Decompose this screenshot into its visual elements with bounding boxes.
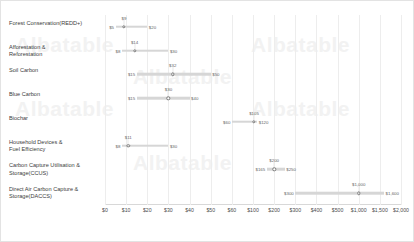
- x-tick-label: $0: [102, 207, 108, 213]
- category-label: Afforestation &Reforestation: [9, 44, 103, 58]
- x-tick-label: $200: [268, 207, 280, 213]
- x-tick-label: $40: [185, 207, 194, 213]
- category-label: Soil Carbon: [9, 67, 103, 74]
- range-bar: [267, 168, 285, 171]
- range-low-label: $60: [223, 119, 232, 124]
- range-mid-label: $1,000: [352, 182, 365, 187]
- category-label: Blue Carbon: [9, 91, 103, 98]
- gridline: [232, 15, 233, 205]
- chart-container: Albatable Albatable Albatable Albatable …: [0, 0, 414, 242]
- gridline: [380, 15, 381, 205]
- x-tick-label: $30: [164, 207, 173, 213]
- range-mid-label: $14: [131, 40, 138, 45]
- gridline: [147, 15, 148, 205]
- range-high-label: $250: [285, 167, 296, 172]
- range-low-label: $15: [128, 96, 137, 101]
- x-tick-label: $1,500: [372, 207, 388, 213]
- gridline: [359, 15, 360, 205]
- gridline: [211, 15, 212, 205]
- category-label: Carbon Capture Utilisation &Storage(CCUS…: [9, 162, 103, 176]
- range-low-label: $8: [116, 143, 122, 148]
- gridline: [316, 15, 317, 205]
- x-tick-label: $400: [311, 207, 323, 213]
- x-tick-label: $500: [332, 207, 344, 213]
- x-tick-label: $10: [122, 207, 131, 213]
- gridline: [190, 15, 191, 205]
- range-high-label: $120: [257, 119, 268, 124]
- x-tick-label: $20: [143, 207, 152, 213]
- category-label: Direct Air Carbon Capture &Storage(DACCS…: [9, 186, 103, 200]
- range-mid-label: $9: [122, 16, 127, 21]
- x-tick-label: $60: [228, 207, 237, 213]
- range-bar: [116, 26, 148, 29]
- range-mid-label: $105: [249, 111, 259, 116]
- range-mid-label: $200: [269, 158, 279, 163]
- range-bar: [137, 97, 190, 100]
- plot-area: $5$20$9$8$30$14$15$50$32$15$40$30$60$120…: [105, 15, 401, 205]
- gridline: [274, 15, 275, 205]
- range-low-label: $8: [116, 48, 122, 53]
- gridline: [295, 15, 296, 205]
- gridline: [168, 15, 169, 205]
- x-tick-label: $1,000: [351, 207, 367, 213]
- range-high-label: $20: [147, 24, 156, 29]
- range-bar: [295, 192, 384, 195]
- gridline: [401, 15, 402, 205]
- gridline: [126, 15, 127, 205]
- range-high-label: $1,600: [384, 191, 399, 196]
- range-high-label: $40: [190, 96, 199, 101]
- category-label: Forest Conservation(REDD+): [9, 20, 103, 27]
- range-bar: [122, 49, 169, 52]
- range-low-label: $165: [255, 167, 266, 172]
- range-mid-label: $30: [165, 87, 172, 92]
- range-low-label: $300: [284, 191, 295, 196]
- range-low-label: $15: [128, 72, 137, 77]
- x-tick-label: $50: [206, 207, 215, 213]
- category-label: Household Devices &Fuel Efficiency: [9, 139, 103, 153]
- range-mid-label: $11: [125, 135, 132, 140]
- gridline: [105, 15, 106, 205]
- range-high-label: $50: [211, 72, 220, 77]
- x-tick-label: $100: [247, 207, 259, 213]
- x-tick-label: $300: [290, 207, 302, 213]
- category-label: Biochar: [9, 115, 103, 122]
- range-high-label: $30: [168, 143, 177, 148]
- range-low-label: $5: [109, 24, 115, 29]
- range-mid-label: $32: [169, 63, 176, 68]
- range-high-label: $30: [168, 48, 177, 53]
- gridline: [338, 15, 339, 205]
- x-tick-label: $2,000: [393, 207, 409, 213]
